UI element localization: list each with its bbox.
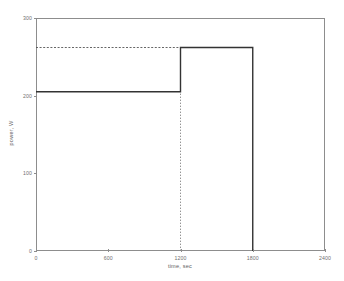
plot-area (36, 18, 325, 251)
x-tick-mark (181, 249, 182, 252)
x-axis-title: time, sec (120, 263, 240, 269)
power-vs-time-chart: 0100200300 0600120018002400 time, sec po… (0, 0, 344, 281)
x-tick-label: 0 (19, 255, 53, 261)
x-tick-label: 600 (91, 255, 125, 261)
y-tick-mark (34, 18, 37, 19)
x-tick-mark (325, 249, 326, 252)
y-tick-mark (34, 173, 37, 174)
y-tick-mark (34, 96, 37, 97)
reference-lines (36, 48, 253, 251)
power-step-series (36, 48, 253, 251)
y-tick-label: 0 (6, 248, 32, 254)
x-tick-mark (253, 249, 254, 252)
x-tick-label: 1800 (236, 255, 270, 261)
y-axis-title: power, W (8, 98, 14, 168)
x-tick-mark (108, 249, 109, 252)
y-tick-label: 100 (6, 170, 32, 176)
x-tick-label: 1200 (164, 255, 198, 261)
x-tick-label: 2400 (308, 255, 342, 261)
x-tick-mark (36, 249, 37, 252)
y-tick-label: 300 (6, 15, 32, 21)
